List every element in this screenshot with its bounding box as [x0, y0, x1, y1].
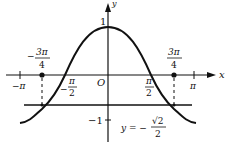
y-tick-1: 1 — [100, 16, 106, 27]
x-tick-3q-pi-num: 3π — [168, 47, 181, 57]
intersection-left — [41, 104, 44, 107]
x-tick-3q-pi-den: 4 — [171, 60, 177, 70]
x-axis-arrow-icon — [207, 72, 216, 78]
x-tick-pi: π — [189, 81, 197, 91]
cosine-graph: x y O 1 −1 −π π − π 2 π 2 − 3π 4 3π 4 y … — [0, 0, 232, 152]
x-tick-neg-3q-pi-num: 3π — [36, 47, 49, 57]
y-axis-arrow-icon — [105, 3, 111, 12]
x-tick-neg-half-pi-den: 2 — [69, 88, 75, 98]
x-tick-neg-3q-pi-den: 4 — [39, 60, 45, 70]
origin-label: O — [97, 77, 105, 88]
x-tick-neg-3q-pi-sign: − — [27, 51, 35, 61]
y-tick-neg1: −1 — [88, 115, 103, 126]
line-label-num: √2 — [152, 116, 163, 126]
x-axis-label: x — [219, 69, 225, 80]
x-tick-half-pi-den: 2 — [146, 88, 152, 98]
line-label-den: 2 — [155, 129, 161, 139]
line-label-prefix: y = − — [120, 123, 147, 133]
y-axis-label: y — [111, 0, 117, 8]
intersection-right — [173, 104, 176, 107]
x-tick-neg-pi: −π — [12, 81, 27, 91]
point-neg-3q-pi — [39, 72, 44, 77]
point-3q-pi — [171, 72, 176, 77]
x-tick-neg-half-pi-num: π — [68, 76, 76, 86]
x-tick-neg-half-pi-sign: − — [60, 84, 68, 94]
